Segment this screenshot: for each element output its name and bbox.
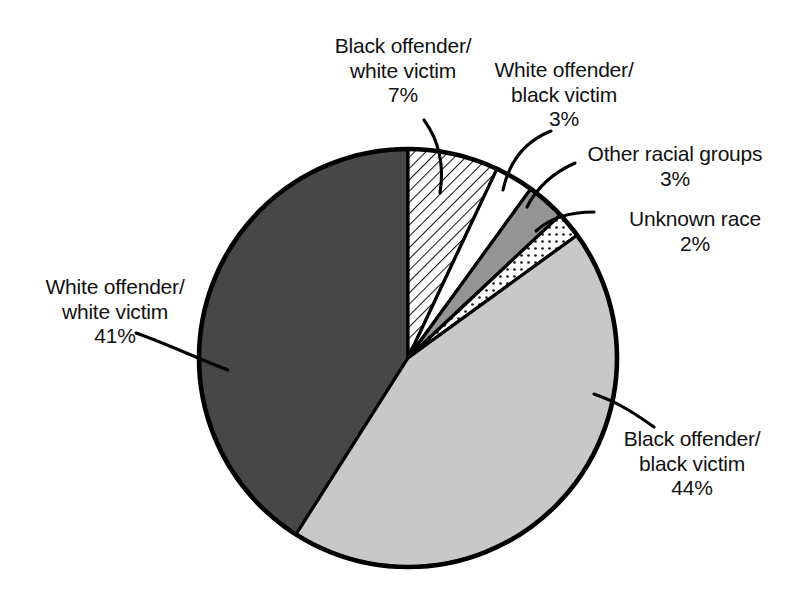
slice-value: 44% [600, 476, 784, 501]
slice-label-line2: black victim [600, 452, 784, 477]
slice-label-unknown-race: Unknown race 2% [606, 207, 784, 256]
slice-label-line1: Black offender/ [600, 427, 784, 452]
slice-value: 7% [318, 83, 488, 108]
slice-label-white-offender-black-victim: White offender/ black victim 3% [478, 58, 650, 132]
slice-label-white-offender-white-victim: White offender/ white victim 41% [18, 275, 212, 349]
slice-label-line1: Other racial groups [566, 142, 784, 167]
slice-label-line1: White offender/ [478, 58, 650, 83]
slice-label-line2: black victim [478, 83, 650, 108]
slice-label-line1: Unknown race [606, 207, 784, 232]
slice-label-black-offender-white-victim: Black offender/ white victim 7% [318, 34, 488, 108]
slice-value: 3% [478, 107, 650, 132]
slice-label-line1: White offender/ [18, 275, 212, 300]
slice-value: 2% [606, 232, 784, 257]
pie-chart-figure: Black offender/ white victim 7% White of… [0, 0, 788, 597]
slice-label-line1: Black offender/ [318, 34, 488, 59]
slice-label-black-offender-black-victim: Black offender/ black victim 44% [600, 427, 784, 501]
slice-label-line2: white victim [318, 59, 488, 84]
slice-label-line2: white victim [18, 300, 212, 325]
slice-value: 3% [566, 167, 784, 192]
slice-label-other-racial-groups: Other racial groups 3% [566, 142, 784, 191]
slice-value: 41% [18, 324, 212, 349]
